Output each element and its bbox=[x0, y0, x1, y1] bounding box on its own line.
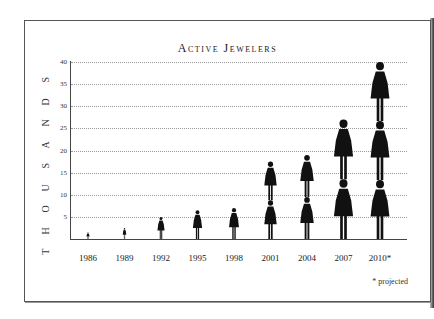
x-tick-label: 2001 bbox=[251, 253, 291, 263]
pictograph-column-2010 bbox=[25, 21, 434, 319]
x-tick-label: 1992 bbox=[141, 253, 181, 263]
x-tick-label: 1989 bbox=[105, 253, 145, 263]
x-tick-label: 1998 bbox=[214, 253, 254, 263]
x-tick-label: 2007 bbox=[324, 253, 364, 263]
x-tick-label: 2010* bbox=[360, 253, 400, 263]
x-tick-label: 1986 bbox=[68, 253, 108, 263]
x-tick-label: 1995 bbox=[178, 253, 218, 263]
chart-frame: Active Jewelers SDNASUOHT 51015202530354… bbox=[24, 20, 431, 302]
x-tick-label: 2004 bbox=[287, 253, 327, 263]
projected-footnote: * projected bbox=[372, 277, 408, 286]
